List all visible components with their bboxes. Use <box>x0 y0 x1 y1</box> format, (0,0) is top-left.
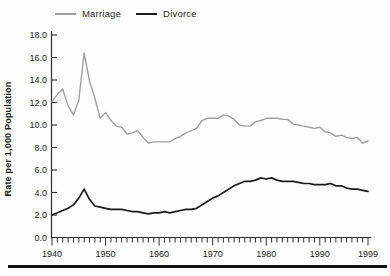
x-tick-label: 1970 <box>203 249 223 259</box>
marriage-divorce-rate-chart: Marriage Divorce Rate per 1,000 Populati… <box>0 0 390 276</box>
y-tick-label: 2.0 <box>34 210 47 220</box>
y-tick-label: 14.0 <box>29 75 47 85</box>
y-tick-label: 6.0 <box>34 165 47 175</box>
divorce-line <box>52 178 368 215</box>
y-tick-label: 12.0 <box>29 98 47 108</box>
x-tick-label: 1999 <box>358 249 378 259</box>
y-tick-label: 16.0 <box>29 53 47 63</box>
bottom-rule <box>8 265 387 268</box>
x-tick-label: 1980 <box>256 249 276 259</box>
chart-svg: 0.02.04.06.08.010.012.014.016.018.019401… <box>0 0 390 276</box>
y-tick-label: 4.0 <box>34 188 47 198</box>
y-tick-label: 0.0 <box>34 233 47 243</box>
y-tick-label: 8.0 <box>34 143 47 153</box>
x-tick-label: 1960 <box>149 249 169 259</box>
y-tick-label: 18.0 <box>29 30 47 40</box>
x-tick-label: 1940 <box>42 249 62 259</box>
x-tick-label: 1990 <box>310 249 330 259</box>
y-tick-label: 10.0 <box>29 120 47 130</box>
marriage-line <box>52 53 368 143</box>
x-tick-label: 1950 <box>96 249 116 259</box>
